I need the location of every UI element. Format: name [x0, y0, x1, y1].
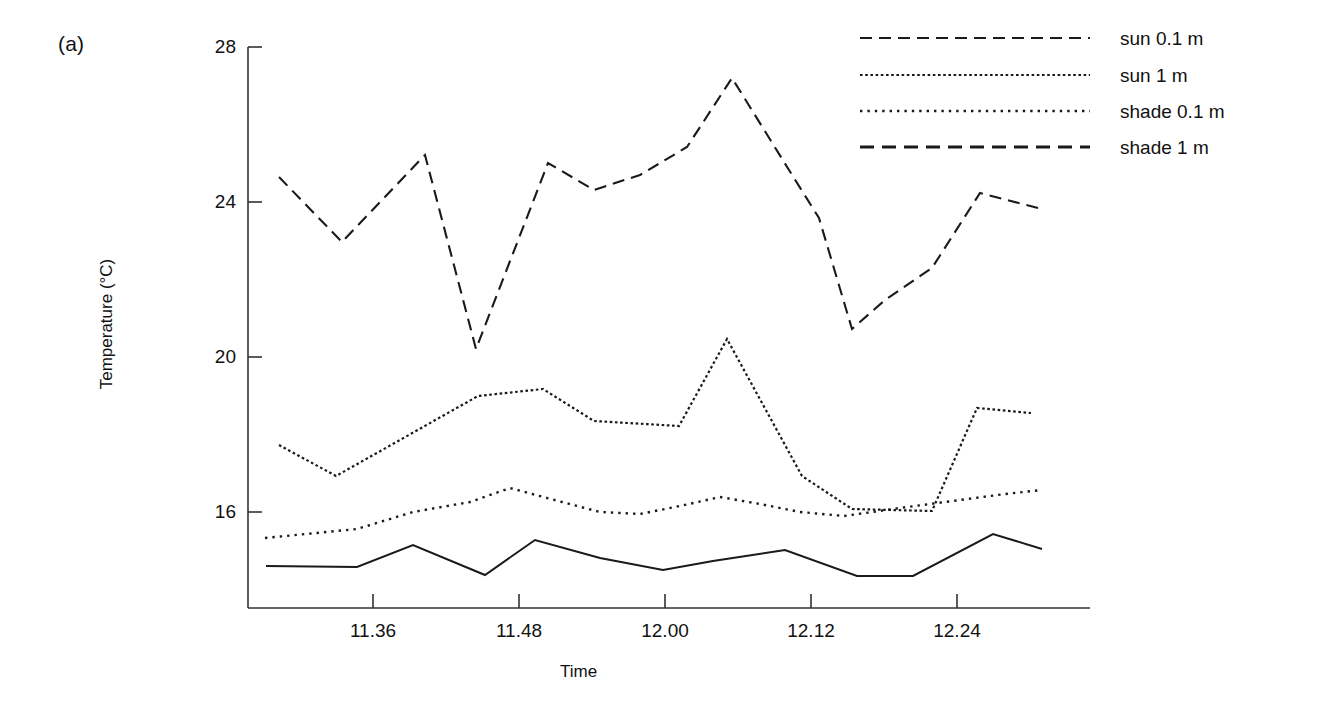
legend-swatch-group — [860, 38, 1090, 147]
legend-label-shade-0-1m: shade 0.1 m — [1120, 101, 1225, 123]
axis-group — [248, 47, 1090, 608]
series-line-sun-0-1m — [279, 78, 1042, 349]
legend-label-sun-1m: sun 1 m — [1120, 65, 1188, 87]
series-line-shade-0-1m — [265, 488, 1042, 538]
series-group — [265, 78, 1042, 576]
legend-label-sun-0-1m: sun 0.1 m — [1120, 28, 1203, 50]
series-line-shade-1m — [266, 534, 1042, 576]
series-line-sun-1m — [279, 339, 1031, 511]
legend-label-shade-1m: shade 1 m — [1120, 137, 1209, 159]
figure-root: (a) Temperature (°C) Time 28 24 20 16 11… — [0, 0, 1319, 712]
